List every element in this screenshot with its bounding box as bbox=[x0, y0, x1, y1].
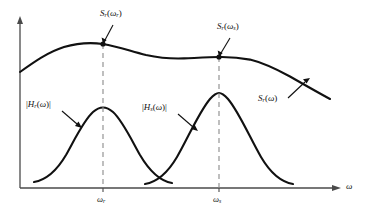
annotation-leaders bbox=[62, 25, 310, 131]
annotation-sr-of-w-paren-close: ) bbox=[274, 93, 277, 103]
annotation-hr-of-w: |Hr(ω)| bbox=[26, 100, 51, 109]
sr-spectrum-curve bbox=[20, 43, 330, 99]
leader-sr-at-wr bbox=[105, 25, 113, 40]
xtick-label-wr-sub: r bbox=[103, 198, 105, 204]
axes-group bbox=[17, 16, 341, 191]
annotation-sr-at-wr-paren-close: ) bbox=[119, 8, 122, 18]
x-axis-label: ω bbox=[346, 182, 352, 191]
y-axis-arrowhead bbox=[17, 16, 23, 24]
annotation-sr-of-w: Sr(ω) bbox=[258, 94, 277, 103]
leader-sr-at-ws bbox=[221, 38, 230, 53]
annotation-sr-at-ws: Sr(ωs) bbox=[217, 22, 239, 31]
leader-hr-of-w bbox=[62, 111, 77, 124]
xtick-label-wr: ωr bbox=[97, 195, 105, 205]
spectral-density-figure: Sr(ωr) Sr(ωs) Sr(ω) |Hr(ω)| |Hs(ω)| ωr ω… bbox=[0, 0, 366, 216]
annotation-hr-of-w-bar-close: | bbox=[49, 99, 51, 109]
xtick-label-ws: ωs bbox=[213, 195, 221, 205]
leader-hs-of-w bbox=[178, 114, 193, 127]
xtick-label-ws-sub: s bbox=[219, 198, 221, 204]
leader-sr-of-w bbox=[288, 82, 305, 98]
annotation-hs-of-w-bar-close: | bbox=[165, 102, 167, 112]
annotation-sr-at-ws-paren-close: ) bbox=[236, 21, 239, 31]
x-axis-arrowhead bbox=[332, 185, 341, 191]
annotation-sr-at-wr: Sr(ωr) bbox=[100, 9, 122, 18]
annotation-hs-of-w: |Hs(ω)| bbox=[142, 103, 167, 112]
figure-canvas bbox=[0, 0, 366, 216]
